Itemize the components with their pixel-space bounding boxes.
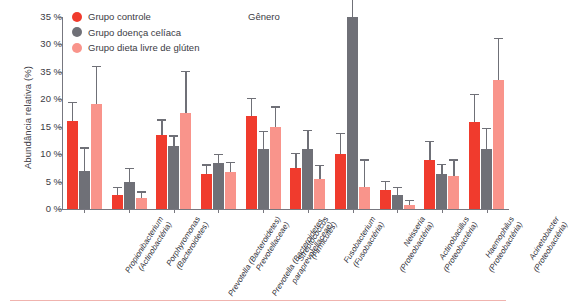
bar-group [330, 17, 375, 209]
error-bar-cap [271, 106, 280, 107]
bar[interactable] [359, 187, 370, 209]
bar[interactable] [136, 198, 147, 209]
error-bar-stem [397, 188, 398, 195]
bar[interactable] [246, 116, 257, 209]
bar-slot [302, 17, 313, 209]
bar-slot [314, 17, 325, 209]
bar-slot [335, 17, 346, 209]
bar-slot [67, 17, 78, 209]
error-bar-cap [425, 141, 434, 142]
error-bar-stem [173, 137, 174, 146]
error-bar-stem [319, 166, 320, 179]
bar-group [62, 17, 107, 209]
error-bar-cap [291, 153, 300, 154]
bar[interactable] [201, 174, 212, 209]
bar[interactable] [67, 121, 78, 209]
error-bar-stem [453, 161, 454, 176]
bar[interactable] [168, 146, 179, 209]
bar-slot [448, 17, 459, 209]
error-bar-stem [185, 72, 186, 113]
bar[interactable] [380, 190, 391, 209]
plot-area: 35 %30 %35 %20 %15 %10 %5 %0 % [62, 17, 509, 209]
error-bar-cap [303, 130, 312, 131]
bar[interactable] [91, 104, 102, 209]
x-axis-category-label[interactable]: Propionibacterium(Actinobactéria) [124, 215, 174, 280]
error-bar-cap [494, 38, 503, 39]
bar-slot [392, 17, 403, 209]
error-bar-cap [259, 131, 268, 132]
error-bar-cap [125, 168, 134, 169]
bar[interactable] [469, 122, 480, 209]
error-bar-cap [181, 71, 190, 72]
x-axis-category-label[interactable]: Haemophilus(Proteobactéria) [478, 215, 525, 274]
bar-slot [136, 17, 147, 209]
bar[interactable] [436, 174, 447, 209]
x-axis-tick-mark [487, 209, 488, 213]
bar-slot [79, 17, 90, 209]
bar-slot [359, 17, 370, 209]
bar-group [286, 17, 331, 209]
error-bar-stem [161, 121, 162, 135]
bar[interactable] [213, 163, 224, 209]
bar[interactable] [258, 149, 269, 209]
bar[interactable] [493, 80, 504, 209]
bar-slot [290, 17, 301, 209]
error-bar-cap [80, 147, 89, 148]
error-bar-stem [385, 182, 386, 190]
bar[interactable] [270, 127, 281, 209]
bar-slot [347, 17, 358, 209]
bar[interactable] [424, 160, 435, 209]
error-bar-stem [129, 169, 130, 182]
bar-slot [380, 17, 391, 209]
bar[interactable] [448, 176, 459, 209]
x-axis-category-label[interactable]: Fusobacterium(Fusobactéria) [342, 215, 386, 270]
bar[interactable] [392, 195, 403, 209]
footer-divider [10, 300, 506, 301]
error-bar-stem [275, 108, 276, 127]
bar-slot [404, 17, 415, 209]
error-bar-cap [381, 181, 390, 182]
bar-group [464, 17, 509, 209]
error-bar-cap [247, 98, 256, 99]
bar[interactable] [335, 154, 346, 209]
bar[interactable] [481, 149, 492, 209]
error-bar-stem [96, 67, 97, 104]
bar[interactable] [79, 171, 90, 209]
bar-group [151, 17, 196, 209]
error-bar-cap [405, 200, 414, 201]
bar[interactable] [314, 179, 325, 209]
error-bar-cap [113, 187, 122, 188]
bar-slot [168, 17, 179, 209]
x-axis-tick-mark [442, 209, 443, 213]
bar[interactable] [156, 135, 167, 209]
bar-slot [201, 17, 212, 209]
bar[interactable] [112, 195, 123, 209]
bar[interactable] [347, 17, 358, 209]
bar[interactable] [124, 182, 135, 209]
error-bar-stem [72, 103, 73, 121]
y-axis-title: Abundância relativa (%) [22, 33, 33, 203]
bar[interactable] [290, 168, 301, 209]
error-bar-cap [137, 191, 146, 192]
x-axis-tick-mark [174, 209, 175, 213]
bar-slot [424, 17, 435, 209]
x-axis-category-label[interactable]: Acinetobacter(Proteobactéria) [523, 215, 569, 274]
bar-slot [112, 17, 123, 209]
error-bar-stem [263, 132, 264, 148]
x-axis-tick-mark [308, 209, 309, 213]
error-bar-stem [340, 134, 341, 154]
x-axis-category-label[interactable]: Neisseria(Proteobactéria) [389, 215, 436, 274]
bar[interactable] [180, 113, 191, 209]
x-axis-category-label[interactable]: Actinobacillus(Proteobactéria) [433, 215, 480, 274]
bar-slot [156, 17, 167, 209]
error-bar-stem [364, 161, 365, 187]
bar[interactable] [302, 149, 313, 209]
error-bar-stem [307, 131, 308, 149]
y-axis-tick-mark [58, 209, 62, 210]
bar[interactable] [404, 205, 415, 209]
bar[interactable] [225, 172, 236, 209]
bar-slot [124, 17, 135, 209]
error-bar-cap [169, 135, 178, 136]
bar-slot [481, 17, 492, 209]
